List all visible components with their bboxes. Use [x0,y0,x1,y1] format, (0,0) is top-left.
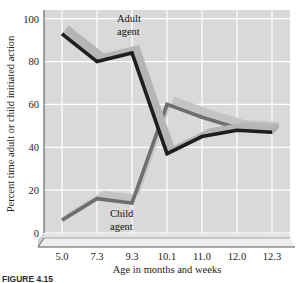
y-tick-label-60: 60 [29,99,40,110]
x-tick-label-4: 11.0 [193,251,211,262]
y-tick-label-40: 40 [29,142,40,153]
child-agent-label-line1: Child [110,208,134,219]
floor-top-face [44,233,290,238]
x-tick-label-2: 9.3 [125,251,138,262]
x-axis-title: Age in months and weeks [113,264,221,275]
child-agent-label-line2: agent [110,221,133,232]
y-tick-label-20: 20 [29,185,40,196]
adult-agent-label-line1: Adult [117,13,141,24]
x-tick-label-5: 12.0 [228,251,246,262]
line-chart: 100 80 60 40 20 0 5.0 7.3 9.3 10.1 11.0 … [0,0,299,283]
x-tick-label-1: 7.3 [90,251,103,262]
x-tick-label-6: 12.3 [263,251,281,262]
y-tick-label-0: 0 [34,228,39,239]
x-tick-label-3: 10.1 [158,251,176,262]
adult-agent-label-line2: agent [117,26,140,37]
y-axis-title: Percent time adult or child initiated ac… [5,35,16,212]
figure-caption: FIGURE 4.15 [2,274,53,283]
figure-container: 100 80 60 40 20 0 5.0 7.3 9.3 10.1 11.0 … [0,0,299,283]
x-tick-label-0: 5.0 [55,251,68,262]
y-tick-label-100: 100 [23,14,39,25]
y-tick-label-80: 80 [29,56,40,67]
floor-front-face [38,238,295,247]
